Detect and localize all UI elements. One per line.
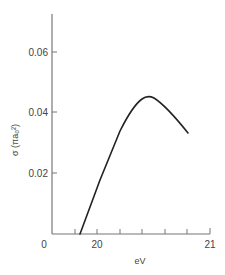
x-tick-label-21: 21 [204, 239, 216, 250]
cross-section-chart: 0.06 0.04 0.02 0 20 21 eV σ (πa₀²) [0, 0, 225, 275]
cross-section-curve [80, 97, 188, 234]
y-tick-label-004: 0.04 [29, 107, 49, 118]
x-tick-label-20: 20 [91, 239, 103, 250]
x-ticks [75, 228, 210, 234]
y-tick-label-006: 0.06 [29, 47, 49, 58]
x-axis-title: eV [134, 256, 145, 266]
y-ticks [52, 52, 57, 173]
y-tick-label-002: 0.02 [29, 168, 49, 179]
x-tick-label-0: 0 [41, 239, 47, 250]
y-axis-title: σ (πa₀²) [10, 124, 20, 156]
